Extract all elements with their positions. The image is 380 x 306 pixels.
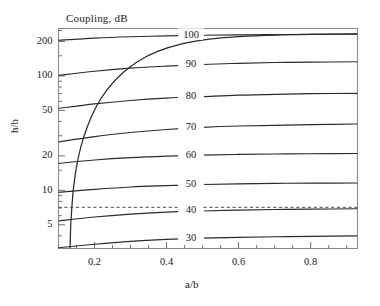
contour-label: 100 — [179, 30, 203, 41]
x-tick-label: 0.8 — [294, 257, 328, 268]
y-tick-label: 100 — [23, 70, 53, 81]
y-tick-label: 10 — [23, 185, 53, 196]
coupling-chart-figure: Coupling, dB a/b h/b 5102050100200 0.20.… — [0, 0, 380, 306]
x-tick-label: 0.4 — [150, 257, 184, 268]
x-tick-label: 0.6 — [222, 257, 256, 268]
contour-label: 30 — [179, 233, 203, 244]
y-tick-label: 5 — [23, 219, 53, 230]
contour-label: 60 — [179, 150, 203, 161]
x-tick-label: 0.2 — [78, 257, 112, 268]
y-axis-title: h/b — [9, 119, 20, 133]
contour-label: 80 — [179, 91, 203, 102]
chart-title: Coupling, dB — [66, 13, 128, 24]
contour-label: 90 — [179, 59, 203, 70]
contour-label: 70 — [179, 122, 203, 133]
y-tick-label: 200 — [23, 36, 53, 47]
plot-frame — [59, 29, 358, 249]
y-tick-label: 50 — [23, 105, 53, 116]
x-axis-title: a/b — [185, 279, 198, 290]
contour-curves — [59, 28, 358, 248]
contour-label: 50 — [179, 179, 203, 190]
y-tick-label: 20 — [23, 150, 53, 161]
contour-label: 40 — [179, 205, 203, 216]
